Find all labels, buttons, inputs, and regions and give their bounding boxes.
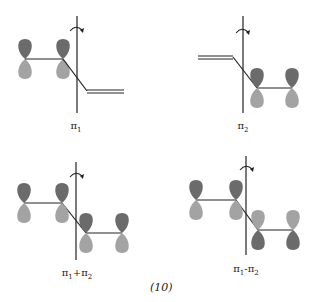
label-pi1-plus-pi2: π1+π2	[62, 267, 92, 281]
panel-pi1-plus-pi2	[17, 162, 129, 260]
subscript: 2	[88, 273, 92, 281]
subscript: 1	[77, 126, 81, 134]
subscript: 2	[244, 126, 248, 134]
panel-pi1	[18, 16, 124, 113]
label-pi1-minus-pi2: π1-π2	[233, 263, 258, 277]
orbital-diagram	[0, 0, 319, 302]
rotation-arrow-icon	[70, 27, 82, 31]
panel-pi1-minus-pi2	[189, 156, 300, 255]
label-pi1: π1	[70, 120, 81, 134]
label-pi2: π2	[237, 120, 248, 134]
subscript: 2	[254, 269, 258, 277]
rotation-arrow-icon	[236, 29, 248, 33]
panel-pi2	[198, 16, 299, 113]
equation-number: (10)	[150, 281, 173, 294]
